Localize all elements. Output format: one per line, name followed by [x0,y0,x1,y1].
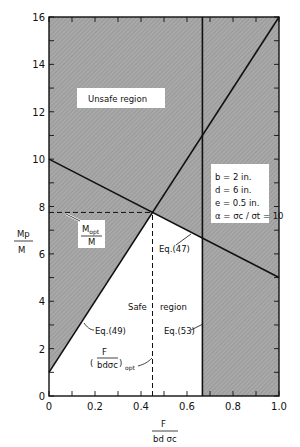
fopt-close-paren: ) [119,358,122,368]
safe-region-label-b: region [160,302,187,312]
x-tick-label: 0.6 [179,401,195,412]
y-tick-label: 12 [32,107,45,118]
safe-region-label-a: Safe [128,302,147,312]
x-tick-label: 1.0 [271,401,287,412]
fopt-subscript: opt [125,364,135,372]
fopt-numerator: F [102,347,107,357]
y-tick-label: 8 [39,202,45,213]
param-alpha: α = σc / σt = 10 [215,211,284,221]
chart: 00.20.40.60.81.00246810121416 Unsafe reg… [0,0,300,447]
x-tick-label: 0 [46,401,52,412]
y-axis-label-denominator: M [18,245,25,255]
y-axis-label-numerator: Mp [17,229,30,239]
fopt-denominator: bdσc [97,360,118,370]
param-d: d = 6 in. [215,185,251,195]
y-tick-label: 16 [32,12,45,23]
x-axis-label-denominator: bd σc [153,434,177,444]
y-tick-label: 10 [32,154,45,165]
y-tick-label: 0 [39,391,45,402]
x-tick-label: 0.4 [133,401,149,412]
x-tick-label: 0.8 [225,401,241,412]
y-tick-label: 14 [32,59,45,70]
mopt-denominator: M [88,237,95,247]
y-tick-label: 2 [39,344,45,355]
eq53-label: Eq.(53) [164,326,195,336]
y-tick-label: 4 [39,296,45,307]
param-e: e = 0.5 in. [215,198,259,208]
x-axis-label-numerator: F [161,419,166,429]
fopt-open-paren: ( [90,358,93,368]
unsafe-region-label: Unsafe region [88,94,147,104]
x-tick-label: 0.2 [87,401,103,412]
y-tick-label: 6 [39,249,45,260]
eq47-label: Eq.(47) [159,244,190,254]
param-b: b = 2 in. [215,172,251,182]
eq49-label: Eq.(49) [95,326,126,336]
